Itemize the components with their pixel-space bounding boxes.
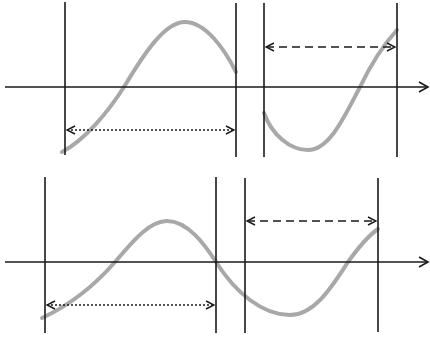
bottom-curve: [42, 221, 378, 318]
top-curve-right: [264, 30, 397, 150]
bottom-panel: [5, 177, 428, 333]
waveform-diagram: [0, 0, 430, 339]
top-panel: [5, 2, 428, 157]
